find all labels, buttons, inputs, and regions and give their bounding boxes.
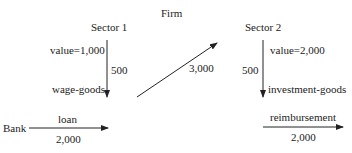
sector2-flow-amount: 500 <box>242 64 259 76</box>
reimbursement-label: reimbursement <box>270 111 336 123</box>
sector2-value: value=2,000 <box>270 44 325 56</box>
transfer-amount: 3,000 <box>189 62 214 74</box>
sector2-name: Sector 2 <box>245 21 281 33</box>
sector1-flow-label: wage-goods <box>52 83 105 95</box>
bank-label: Bank <box>3 122 26 134</box>
sector2-flow-label: investment-goods <box>268 83 346 95</box>
loan-amount: 2,000 <box>56 133 81 145</box>
sector1-flow-amount: 500 <box>111 64 128 76</box>
sector1-name: Sector 1 <box>91 21 127 33</box>
reimbursement-amount: 2,000 <box>291 131 316 143</box>
sector1-value: value=1,000 <box>50 44 105 56</box>
firm-title: Firm <box>161 7 182 19</box>
loan-label: loan <box>58 113 77 125</box>
